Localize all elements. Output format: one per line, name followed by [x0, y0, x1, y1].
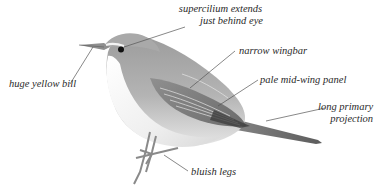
label-wing-panel: pale mid-wing panel	[260, 74, 346, 86]
label-legs: bluish legs	[191, 166, 236, 178]
label-wingbar-text: narrow wingbar	[239, 45, 307, 57]
label-legs-text: bluish legs	[191, 166, 236, 178]
label-primary-projection: long primary projection	[318, 101, 373, 125]
label-supercilium: supercilium extends just behind eye	[178, 3, 263, 27]
label-wingbar: narrow wingbar	[239, 45, 307, 57]
eye	[118, 47, 124, 53]
label-supercilium-line2: just behind eye	[178, 15, 263, 27]
warbler-illustration	[0, 0, 382, 192]
label-bill: huge yellow bill	[9, 78, 76, 90]
label-supercilium-line1: supercilium extends	[178, 3, 263, 15]
bird-illustration-figure: supercilium extends just behind eye huge…	[0, 0, 382, 192]
label-primary-projection-line2: projection	[318, 113, 373, 125]
label-wing-panel-text: pale mid-wing panel	[260, 74, 346, 86]
label-bill-text: huge yellow bill	[9, 78, 76, 90]
label-primary-projection-line1: long primary	[318, 101, 373, 113]
